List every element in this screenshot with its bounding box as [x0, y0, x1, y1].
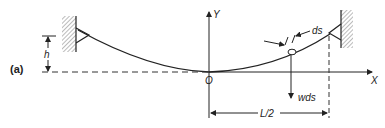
ds-element	[264, 31, 310, 98]
catenary-diagram: h (a) Y X O ds wds L/2	[0, 0, 385, 128]
wds-label: wds	[298, 92, 316, 103]
right-wall-support	[329, 10, 353, 48]
x-axis-label: X	[370, 75, 378, 86]
ds-label: ds	[312, 25, 323, 36]
y-axis-label: Y	[213, 9, 221, 20]
half-span-label: L/2	[260, 108, 274, 119]
origin-label: O	[205, 75, 213, 86]
height-label: h	[44, 49, 50, 60]
panel-label: (a)	[10, 63, 24, 75]
